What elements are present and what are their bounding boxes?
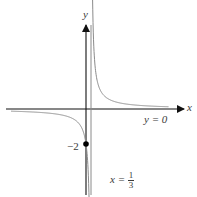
y-axis-label: y — [83, 9, 88, 20]
right-branch-curve — [92, 0, 169, 107]
y-intercept-point — [83, 141, 89, 147]
vertical-asymptote-label: x = 1 3 — [110, 171, 134, 190]
left-branch-curve — [11, 111, 91, 197]
horizontal-asymptote-label: y = 0 — [144, 114, 167, 125]
fraction-denominator: 3 — [129, 181, 134, 190]
graph-canvas — [0, 0, 197, 197]
fraction: 1 3 — [128, 171, 135, 190]
point-value-label: −2 — [67, 141, 79, 152]
vertical-asymptote-prefix: x = — [110, 173, 125, 185]
x-axis-label: x — [187, 102, 192, 113]
